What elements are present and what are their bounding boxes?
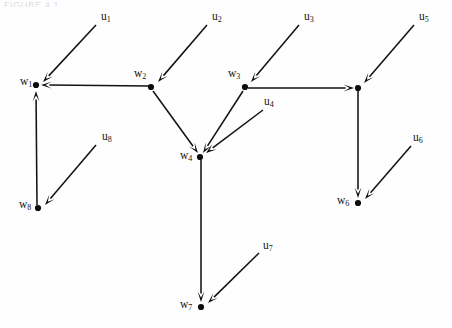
input-label-subscript-u7: 7 (269, 244, 273, 253)
input-label-subscript-u1: 1 (107, 15, 111, 24)
graph-node-w8 (35, 205, 41, 211)
input-label-subscript-u6: 6 (419, 136, 423, 145)
input-label-u6: u6 (413, 132, 423, 145)
graph-node-w1 (33, 82, 39, 88)
edges-layer (36, 25, 414, 297)
input-label-u3: u3 (304, 11, 314, 24)
node-label-w3: w3 (228, 68, 240, 81)
edge-w2-to-w4 (153, 91, 193, 146)
graph-node-n5 (355, 85, 361, 91)
edge-u5-to-n5 (369, 25, 414, 77)
input-label-u2: u2 (212, 11, 222, 24)
nodes-layer (33, 82, 361, 310)
edge-u6-to-w6 (371, 146, 411, 193)
input-label-subscript-u2: 2 (218, 15, 222, 24)
edge-u2-to-w2 (163, 25, 207, 76)
arrowheads-layer (33, 72, 375, 303)
node-label-w7: w7 (180, 299, 192, 312)
edge-w2-to-w1 (49, 85, 149, 86)
node-label-w8: w8 (19, 199, 31, 212)
graph-node-w2 (148, 84, 154, 90)
diagram-canvas: FIGURE 4.1 w1w2w3w4w8w6w7u1u2u3u4u5u6u7u… (0, 0, 452, 328)
node-label-subscript-w1: 1 (28, 80, 32, 89)
node-label-subscript-w2: 2 (142, 72, 146, 81)
input-label-u1: u1 (101, 11, 111, 24)
edge-u8-to-w8 (50, 145, 96, 199)
node-label-subscript-w3: 3 (236, 72, 240, 81)
graph-node-w7 (198, 304, 204, 310)
edge-w8-to-w1 (36, 99, 37, 205)
input-label-subscript-u4: 4 (270, 100, 274, 109)
node-label-w2: w2 (134, 68, 146, 81)
graph-node-w4 (197, 154, 203, 160)
graph-node-w3 (242, 84, 248, 90)
node-label-w6: w6 (337, 195, 349, 208)
node-label-w1: w1 (20, 76, 32, 89)
edge-u4-to-w4 (213, 110, 263, 148)
graph-svg (0, 0, 452, 328)
input-label-u8: u8 (102, 131, 112, 144)
node-label-subscript-w6: 6 (345, 199, 349, 208)
edge-u7-to-w7 (214, 253, 259, 297)
input-label-subscript-u5: 5 (425, 15, 429, 24)
node-label-subscript-w4: 4 (188, 154, 192, 163)
input-label-u5: u5 (419, 11, 429, 24)
node-label-subscript-w7: 7 (188, 303, 192, 312)
input-label-subscript-u8: 8 (108, 135, 112, 144)
input-label-subscript-u3: 3 (310, 15, 314, 24)
node-label-subscript-w8: 8 (27, 203, 31, 212)
input-label-u7: u7 (263, 240, 273, 253)
graph-node-w6 (355, 200, 361, 206)
edge-u3-to-w3 (256, 25, 299, 76)
node-label-w4: w4 (180, 150, 192, 163)
input-label-u4: u4 (264, 96, 274, 109)
edge-u1-to-w1 (49, 25, 96, 76)
